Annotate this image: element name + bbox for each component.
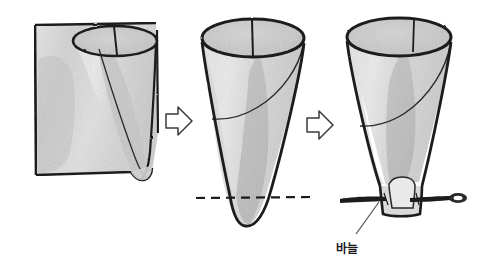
needle-label-leader-line [356, 202, 379, 234]
sheet-outline-right [157, 30, 158, 133]
cone3-base-flap [389, 177, 415, 208]
arrow-step2-to-step3 [307, 111, 333, 139]
step-2-formed-cone [196, 19, 312, 226]
sheet-outline-left [35, 25, 36, 175]
cone3-mouth [347, 18, 451, 56]
step-3-truncated-cone-with-needle: 바늘 [336, 18, 467, 256]
cone2-mouth-seam [252, 20, 253, 57]
handdrawn-diagram: 바늘 [0, 0, 497, 274]
needle-eye-icon [449, 193, 467, 203]
arrow-step1-to-step2 [166, 107, 192, 135]
illustration-canvas: 바늘 [0, 0, 497, 274]
needle-label: 바늘 [336, 241, 358, 256]
cone3-mouth-seam [413, 20, 414, 52]
step-1-rolled-paper-sheet [35, 23, 158, 180]
